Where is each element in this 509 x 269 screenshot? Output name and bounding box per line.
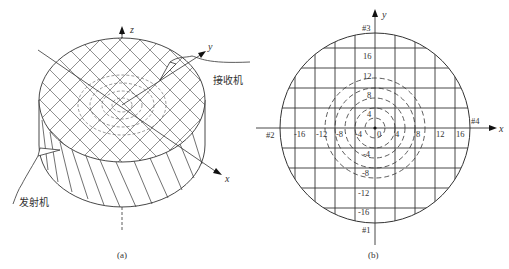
svg-text:8: 8: [367, 90, 371, 100]
x-axis-b-arrow-icon: [489, 125, 497, 131]
y-axis-b-arrow-icon: [372, 9, 378, 17]
caption-b: (b): [368, 250, 379, 260]
svg-text:-8: -8: [336, 129, 343, 139]
sensor-4-label: #4: [471, 116, 480, 126]
svg-text:-8: -8: [362, 168, 369, 178]
z-axis-label: z: [129, 24, 134, 35]
svg-text:-4: -4: [355, 129, 363, 139]
panel-b-plan: y x #3 #2 #4 #1 -16 -12 -8 -4 0 4 8 12 1…: [256, 9, 504, 260]
x-axis-arrow-icon: [213, 168, 222, 175]
svg-text:-12: -12: [358, 188, 369, 198]
x-axis-label: x: [224, 173, 230, 184]
svg-text:16: 16: [363, 51, 372, 61]
figure-canvas: z y x 接收机 发射机 (a): [0, 0, 509, 269]
svg-text:-16: -16: [294, 129, 305, 139]
receiver-label: 接收机: [213, 74, 243, 86]
y-axis-label: y: [207, 41, 213, 52]
svg-text:-4: -4: [363, 149, 371, 159]
svg-text:-16: -16: [358, 207, 369, 217]
y-axis-arrow-icon: [198, 51, 206, 58]
svg-text:-12: -12: [316, 129, 327, 139]
y-axis-b-label: y: [381, 9, 387, 20]
svg-text:8: 8: [416, 129, 420, 139]
svg-text:16: 16: [456, 129, 465, 139]
transmitter-label: 发射机: [19, 196, 49, 208]
caption-a: (a): [117, 250, 127, 260]
svg-text:12: 12: [436, 129, 445, 139]
sensor-1-label: #1: [362, 225, 371, 235]
x-axis-b-label: x: [498, 123, 504, 134]
x-tick-labels: -16 -12 -8 -4 0 4 8 12 16: [294, 129, 465, 139]
sensor-3-label: #3: [362, 23, 371, 33]
svg-text:0: 0: [377, 129, 381, 139]
z-axis-arrow-icon: [119, 26, 125, 34]
svg-text:12: 12: [363, 71, 372, 81]
sensor-2-label: #2: [266, 130, 275, 140]
